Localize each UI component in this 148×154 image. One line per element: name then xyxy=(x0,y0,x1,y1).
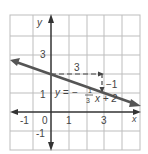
x-axis-label: x xyxy=(131,114,137,124)
equation-suffix: x + 2 xyxy=(94,93,117,104)
y-axis-label: y xyxy=(36,17,43,28)
x-tick-1: 1 xyxy=(66,115,72,126)
run-label: 3 xyxy=(74,62,80,73)
y-tick-neg1: -1 xyxy=(36,128,45,139)
axis-labels: y x 3 1 -1 -1 0 1 3 xyxy=(20,17,137,139)
rise-label: −1 xyxy=(106,79,118,90)
x-tick-0: 0 xyxy=(42,115,48,126)
coordinate-graph: y x 3 1 -1 -1 0 1 3 3 −1 y = − 1 3 x + 2 xyxy=(0,0,148,154)
y-tick-1: 1 xyxy=(40,89,46,100)
equation-numerator: 1 xyxy=(88,87,92,94)
line-right-arrow-icon xyxy=(129,99,141,107)
y-tick-3: 3 xyxy=(40,49,46,60)
equation-denominator: 3 xyxy=(86,97,90,104)
run-arrow-icon xyxy=(98,72,104,77)
x-tick-3: 3 xyxy=(101,115,107,126)
x-tick-neg1: -1 xyxy=(20,115,29,126)
equation-prefix: y = − xyxy=(54,87,77,98)
line-left-arrow-icon xyxy=(10,58,20,66)
x-axis-left-arrow-icon xyxy=(10,109,18,115)
